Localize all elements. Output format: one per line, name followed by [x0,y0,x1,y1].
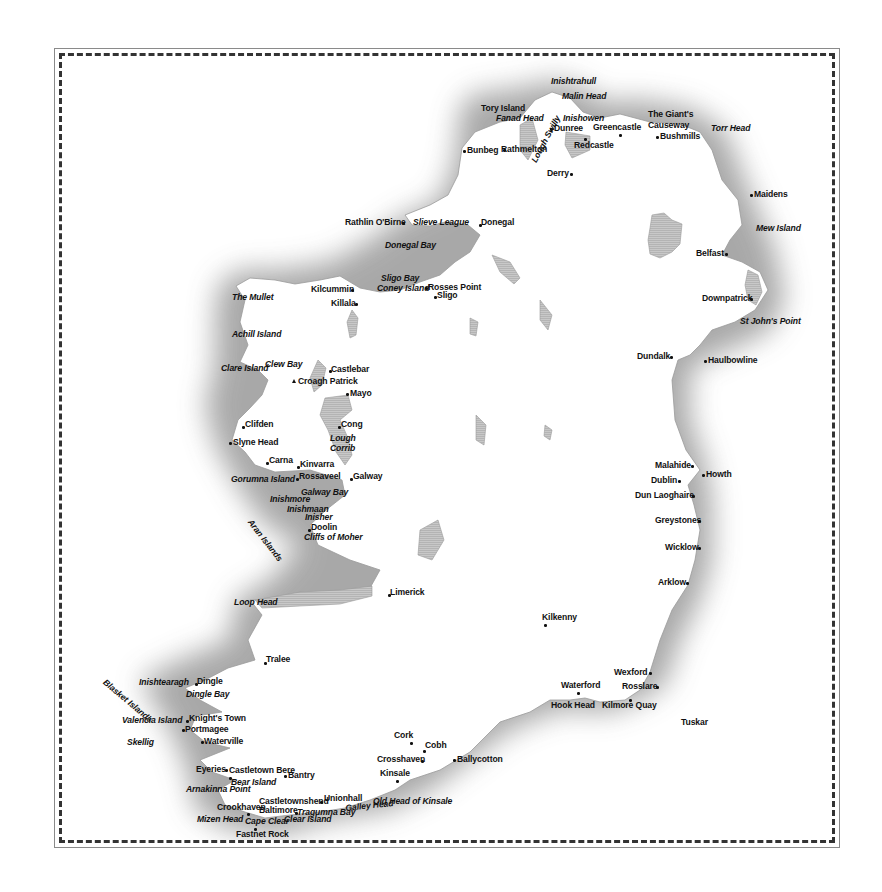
location-dot-icon [329,370,332,373]
location-dot-icon [678,480,681,483]
place-label: Cape Clear [245,817,289,826]
place-label: Howth [706,470,732,479]
location-dot-icon [656,136,659,139]
location-dot-icon [702,474,705,477]
place-label: Causeway [648,121,689,130]
location-dot-icon [704,360,707,363]
place-label: Limerick [390,588,425,597]
location-dot-icon [402,222,405,225]
location-dot-icon [296,478,299,481]
place-label: Wicklow [665,543,699,552]
place-label: Sligo [437,291,458,300]
place-label: Waterford [561,681,600,690]
place-label: Clear Island [284,815,332,824]
location-dot-icon [434,296,437,299]
place-label: Tory Island [481,104,525,113]
place-label: Valencia Island [122,716,182,725]
location-dot-icon [691,465,694,468]
place-label: Cork [394,731,413,740]
place-label: Gorumna Island [231,475,295,484]
place-label: Kilmore Quay [602,701,657,710]
place-label: Clare Island [221,364,269,373]
place-label: Inishmore [270,495,310,504]
place-label: Mew Island [756,224,801,233]
location-dot-icon [750,194,753,197]
place-label: Rosslare [622,682,658,691]
location-dot-icon [479,224,482,227]
location-dot-icon [656,686,659,689]
place-label: Malahide [655,461,691,470]
place-label: Coney Island [377,284,429,293]
place-label: Doolin [311,523,337,532]
location-dot-icon [388,594,391,597]
location-dot-icon [686,582,689,585]
place-label: Rossaveel [299,472,341,481]
place-label: The Mullet [232,293,274,302]
location-dot-icon [229,442,232,445]
location-dot-icon [421,760,424,763]
place-label: Dun Laoghaire [635,491,694,500]
place-label: Sligo Bay [381,274,419,283]
location-dot-icon [619,134,622,137]
place-label: Ballycotton [457,755,503,764]
place-label: Fastnet Rock [236,830,289,839]
location-dot-icon [584,138,587,141]
location-dot-icon [182,729,185,732]
place-label: Inishtrahull [551,77,596,86]
place-label: Malin Head [562,92,606,101]
location-dot-icon [350,478,353,481]
place-label: Derry [547,169,569,178]
place-label: Clew Bay [265,360,302,369]
place-label: Eyeries [196,765,226,774]
place-label: Haulbowline [708,356,758,365]
place-label: Greencastle [593,123,641,132]
place-label: Dublin [651,476,677,485]
place-label: Croagh Patrick [298,377,358,386]
location-dot-icon [698,520,701,523]
place-label: Rathlin O'Birne [345,218,406,227]
location-dot-icon [338,426,341,429]
place-label: Castletown Bere [229,766,295,775]
place-label: Knight's Town [189,714,246,723]
place-label: Cobh [425,741,447,750]
place-label: Maidens [754,190,788,199]
location-dot-icon [201,741,204,744]
place-label: Downpatrick [702,294,752,303]
location-dot-icon [423,750,426,753]
location-dot-icon [698,547,701,550]
place-label: Galway [353,472,383,481]
place-label: Waterville [204,737,243,746]
location-dot-icon [320,801,323,804]
place-label: Greystones [655,516,701,525]
location-dot-icon [649,672,652,675]
location-dot-icon [225,769,228,772]
place-label: Corrib [330,444,355,453]
place-label: Kilcummin [311,285,354,294]
place-label: Bushmills [660,132,700,141]
location-dot-icon [254,828,257,831]
place-label: Belfast [696,249,724,258]
location-dot-icon [503,149,506,152]
location-dot-icon [577,692,580,695]
location-dot-icon [284,775,287,778]
place-label: Skellig [127,738,154,747]
place-label: Hook Head [551,701,595,710]
place-label: Killala [331,299,356,308]
place-label: Wexford [614,668,648,677]
place-label: Tuskar [681,718,708,727]
place-label: Dingle [197,677,223,686]
place-label: Bunbeg [467,146,498,155]
location-dot-icon [266,462,269,465]
location-dot-icon [544,624,547,627]
place-label: Dundalk [637,352,670,361]
location-dot-icon [242,426,245,429]
location-dot-icon [629,699,632,702]
place-label: Dingle Bay [186,690,229,699]
place-label: Crosshaven [377,755,425,764]
place-label: Fanad Head [496,114,544,123]
place-label: Slieve League [413,218,469,227]
place-label: Lough [330,434,356,443]
location-dot-icon [297,466,300,469]
place-label: Redcastle [574,141,614,150]
place-label: Tralee [266,655,290,664]
